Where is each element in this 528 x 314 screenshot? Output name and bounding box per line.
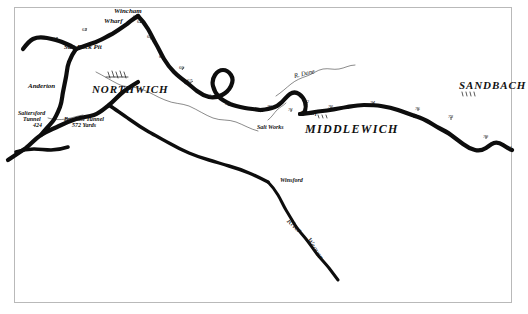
hatch-middlewich [318, 115, 327, 118]
canal-northwich-bend [186, 70, 260, 110]
canal-main-line [8, 16, 512, 280]
canal-weaver-navigation [109, 105, 268, 182]
canal-sandbach-approach [415, 116, 512, 150]
river-network [48, 65, 355, 131]
canal-middlewich-approach [260, 93, 306, 115]
canal-map-page: NORTHWICH MIDDLEWICH SANDBACH Wincham Wh… [0, 0, 528, 314]
canal-saltrock-to-wincham [76, 16, 138, 49]
canal-winsford-south [268, 182, 338, 280]
hatch-sandbach [462, 92, 475, 96]
river-dane-path [276, 65, 355, 96]
canal-saltrock-hook [23, 37, 76, 49]
town-hatching [106, 16, 475, 118]
map-drawing-canvas [0, 0, 528, 314]
canal-wincham-to-northwich [138, 16, 186, 82]
hatch-northwich [106, 71, 128, 78]
canal-through-middlewich [300, 105, 415, 116]
